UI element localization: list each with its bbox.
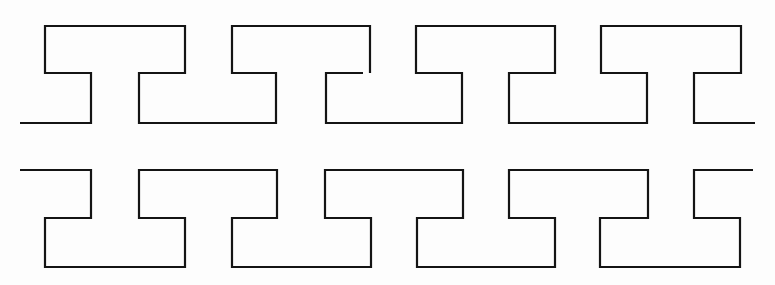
meander-pattern-figure [0,0,775,285]
bottom-meander-row [20,170,753,267]
top-row-segment-2 [326,26,755,123]
top-meander-row [20,26,755,123]
meander-pattern-svg [0,0,775,285]
bottom-row-segment-1 [20,170,753,267]
top-row-segment-1 [20,26,370,123]
